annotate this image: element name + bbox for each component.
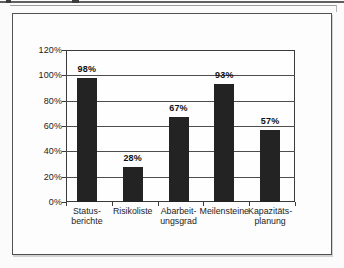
category-label: Risikoliste [108, 206, 158, 217]
y-tick-label: 40% [32, 146, 62, 156]
category-label: Status-berichte [62, 206, 112, 227]
y-tick-label: 100% [32, 70, 62, 80]
y-axis-tick [62, 151, 66, 152]
y-tick-label: 120% [32, 45, 62, 55]
y-axis-tick [62, 126, 66, 127]
bar-value-label: 28% [113, 153, 153, 164]
category-label: Meilensteine [199, 206, 249, 217]
bar-value-label: 93% [204, 70, 244, 81]
y-axis-tick [62, 50, 66, 51]
bar-value-label: 98% [67, 64, 107, 75]
category-label: Abarbeit-ungsgrad [154, 206, 204, 227]
y-tick-label: 80% [32, 96, 62, 106]
bar [214, 84, 234, 202]
bar [77, 78, 97, 202]
category-label: Kapazitäts-planung [245, 206, 295, 227]
y-axis-tick [62, 101, 66, 102]
bar-value-label: 57% [250, 116, 290, 127]
gridline [66, 75, 295, 76]
y-axis-tick [62, 75, 66, 76]
bar-chart: 120%100%80%60%40%20%0%98%Status-berichte… [0, 0, 344, 268]
bar [123, 167, 143, 202]
bar [169, 117, 189, 202]
x-axis-tick [295, 202, 296, 206]
bar [260, 130, 280, 202]
scanned-page: 120%100%80%60%40%20%0%98%Status-berichte… [0, 0, 344, 268]
gridline [66, 101, 295, 102]
bar-value-label: 67% [159, 103, 199, 114]
y-tick-label: 60% [32, 121, 62, 131]
y-tick-label: 0% [32, 197, 62, 207]
y-tick-label: 20% [32, 172, 62, 182]
y-axis-tick [62, 177, 66, 178]
